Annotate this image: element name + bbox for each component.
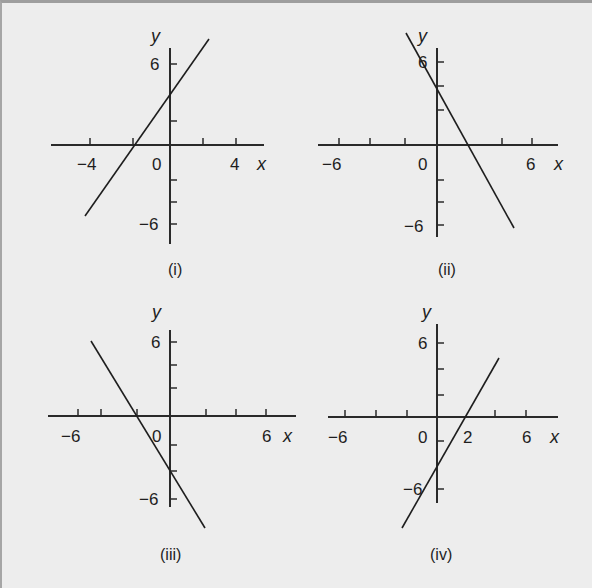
origin-label: 0 bbox=[418, 428, 427, 447]
x-tick-label: 4 bbox=[230, 155, 239, 174]
y-tick-label: −6 bbox=[139, 490, 158, 509]
y-tick-label: 6 bbox=[418, 53, 427, 72]
caption: (i) bbox=[168, 261, 182, 278]
caption: (ii) bbox=[438, 261, 456, 278]
plot-iv: y 6 −6 −6 0 2 6 x (iv) bbox=[328, 302, 560, 563]
graph-line bbox=[402, 358, 499, 528]
x-tick-label: 6 bbox=[522, 428, 531, 447]
x-tick-label: 6 bbox=[526, 155, 535, 174]
x-tick-label: 2 bbox=[463, 428, 472, 447]
plot-i: y 6 −6 −4 0 4 x (i) bbox=[51, 26, 267, 278]
y-tick-label: 6 bbox=[150, 55, 159, 74]
y-axis-label: y bbox=[150, 302, 162, 322]
graph-line bbox=[85, 39, 209, 216]
y-tick-label: −6 bbox=[404, 217, 423, 236]
x-tick-label: −6 bbox=[61, 427, 80, 446]
origin-label: 0 bbox=[152, 427, 161, 446]
x-tick-label: −6 bbox=[328, 428, 347, 447]
plot-ii: y 6 −6 −6 0 6 x (ii) bbox=[318, 26, 564, 278]
x-tick-label: −4 bbox=[77, 155, 96, 174]
x-axis-label: x bbox=[553, 154, 564, 174]
y-axis-label: y bbox=[416, 26, 428, 46]
plot-iii: y 6 −6 −6 0 6 x (iii) bbox=[48, 302, 296, 563]
x-axis-label: x bbox=[549, 427, 560, 447]
origin-label: 0 bbox=[418, 155, 427, 174]
graphs-figure: y 6 −6 −4 0 4 x (i) y 6 −6 −6 0 6 x (ii) bbox=[0, 0, 592, 588]
y-tick-label: −6 bbox=[403, 480, 422, 499]
y-tick-label: 6 bbox=[418, 334, 427, 353]
y-axis-label: y bbox=[149, 26, 161, 46]
origin-label: 0 bbox=[152, 155, 161, 174]
y-tick-label: −6 bbox=[139, 215, 158, 234]
x-axis-label: x bbox=[282, 426, 293, 446]
y-axis-label: y bbox=[420, 302, 432, 322]
caption: (iii) bbox=[160, 546, 181, 563]
caption: (iv) bbox=[430, 546, 452, 563]
x-tick-label: 6 bbox=[262, 427, 271, 446]
x-axis-label: x bbox=[256, 154, 267, 174]
y-tick-label: 6 bbox=[151, 333, 160, 352]
x-tick-label: −6 bbox=[322, 155, 341, 174]
